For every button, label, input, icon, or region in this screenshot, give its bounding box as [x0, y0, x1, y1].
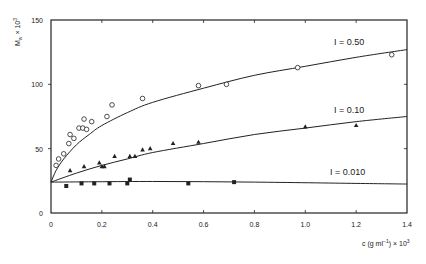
x-tick-label: 0.2	[97, 221, 107, 228]
circle-marker	[54, 163, 59, 168]
circle-marker	[68, 132, 73, 137]
curve-label-i050: I = 0.50	[334, 37, 364, 47]
triangle-marker	[148, 146, 153, 150]
square-marker	[128, 178, 132, 182]
triangle-marker	[133, 154, 138, 158]
circle-marker	[140, 96, 145, 101]
fit-curve	[51, 181, 407, 184]
x-tick-label: 1.0	[300, 221, 310, 228]
triangle-marker	[196, 140, 201, 144]
triangle-marker	[97, 160, 102, 164]
x-tick-label: 0	[49, 221, 53, 228]
triangle-marker	[140, 147, 145, 151]
circle-marker	[72, 136, 77, 141]
x-axis-label: c (g ml−1) × 103	[362, 238, 410, 248]
square-marker	[186, 181, 190, 185]
curve-label-i0010: I = 0.010	[330, 167, 365, 177]
square-marker	[64, 184, 68, 188]
circle-marker	[295, 65, 300, 70]
axis-ticks: 00.20.40.60.81.01.21.4050100150	[31, 17, 412, 228]
triangle-marker	[303, 124, 308, 128]
mw-vs-concentration-chart: 00.20.40.60.81.01.21.4050100150 I = 0.50…	[0, 0, 426, 264]
curve-label-i010: I = 0.10	[334, 105, 364, 115]
y-tick-label: 0	[39, 210, 43, 217]
triangle-marker	[112, 154, 117, 158]
triangle-marker	[128, 154, 133, 158]
square-marker	[107, 181, 111, 185]
y-tick-label: 50	[35, 146, 43, 153]
circle-marker	[105, 114, 110, 119]
triangle-marker	[354, 123, 359, 127]
circle-marker	[389, 52, 394, 57]
circle-marker	[61, 152, 66, 157]
circle-marker	[89, 119, 94, 124]
square-marker	[232, 180, 236, 184]
circle-marker	[84, 127, 89, 132]
square-marker	[92, 181, 96, 185]
square-marker	[80, 181, 84, 185]
triangle-marker	[171, 141, 176, 145]
circle-marker	[82, 117, 87, 122]
triangle-marker	[82, 164, 87, 168]
y-axis-label: Mw × 103	[12, 18, 23, 46]
x-tick-label: 0.4	[148, 221, 158, 228]
y-tick-label: 100	[31, 81, 43, 88]
x-tick-label: 1.2	[351, 221, 361, 228]
triangle-marker	[68, 168, 73, 172]
circle-marker	[56, 157, 61, 162]
circle-marker	[196, 83, 201, 88]
circle-marker	[110, 103, 115, 108]
x-tick-label: 0.8	[250, 221, 260, 228]
circle-marker	[224, 82, 229, 87]
x-tick-label: 1.4	[402, 221, 412, 228]
x-tick-label: 0.6	[199, 221, 209, 228]
y-tick-label: 150	[31, 17, 43, 24]
square-marker	[125, 181, 129, 185]
circle-marker	[67, 141, 72, 146]
